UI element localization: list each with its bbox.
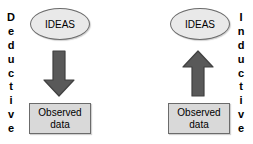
side-label-letter: u — [238, 54, 245, 65]
side-label-letter: v — [8, 109, 14, 120]
side-label-letter: d — [8, 40, 15, 51]
node-observed-data-inductive: Observed data — [168, 103, 230, 134]
up-block-arrow-icon — [182, 50, 214, 97]
side-label-letter: c — [238, 68, 244, 79]
side-label-letter: i — [239, 95, 242, 106]
side-label-letter: c — [8, 68, 14, 79]
node-label-line2: data — [50, 119, 69, 131]
side-label-letter: D — [7, 12, 15, 23]
side-label-letter: e — [8, 26, 14, 37]
reasoning-diagram: D e d u c t i v e IDEAS Observed data I … — [0, 0, 253, 144]
side-label-letter: t — [239, 81, 243, 92]
side-label-letter: n — [238, 26, 245, 37]
node-ideas-deductive: IDEAS — [30, 8, 90, 40]
down-block-arrow-icon — [43, 50, 75, 97]
side-label-letter: v — [238, 109, 244, 120]
side-label-letter: t — [9, 81, 13, 92]
node-label-line1: Observed — [177, 107, 220, 119]
side-label-letter: e — [8, 123, 14, 134]
side-label-letter: e — [238, 123, 244, 134]
node-label-line2: data — [189, 119, 208, 131]
node-label: IDEAS — [45, 19, 75, 30]
side-label-deductive: D e d u c t i v e — [3, 12, 19, 134]
side-label-letter: u — [8, 54, 15, 65]
side-label-letter: I — [239, 12, 242, 23]
node-observed-data-deductive: Observed data — [29, 103, 91, 134]
side-label-letter: d — [238, 40, 245, 51]
side-label-inductive: I n d u c t i v e — [233, 12, 249, 134]
node-label: IDEAS — [185, 19, 215, 30]
node-label-line1: Observed — [38, 107, 81, 119]
side-label-letter: i — [9, 95, 12, 106]
node-ideas-inductive: IDEAS — [170, 8, 230, 40]
panel-deductive: D e d u c t i v e IDEAS Observed data — [0, 0, 126, 144]
